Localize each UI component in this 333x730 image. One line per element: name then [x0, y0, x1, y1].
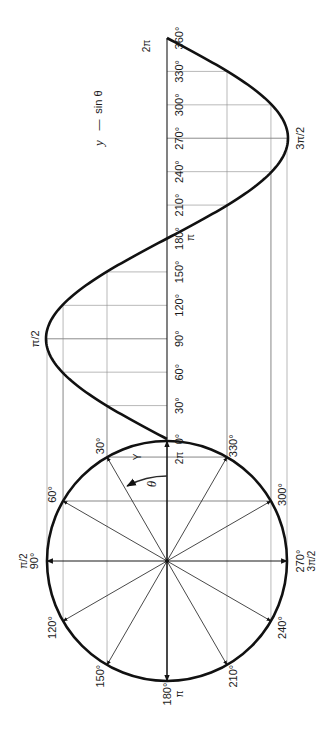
- curve-label-270: 3π/2: [294, 127, 306, 150]
- circle-sublabel-180: π: [174, 690, 185, 697]
- axis-label-0: 0°: [173, 434, 185, 445]
- circle-label-90: 90°: [28, 553, 40, 570]
- circle-sublabel-270: 3π/2: [306, 550, 317, 571]
- radius-arrow-150: [107, 561, 167, 665]
- axis-label-270: 270°: [173, 127, 185, 150]
- axis-label-150: 150°: [173, 261, 185, 284]
- radius-arrow-240: [167, 561, 271, 621]
- axis-label-330: 330°: [173, 60, 185, 83]
- axis-label-240: 240°: [173, 160, 185, 183]
- axis-label-30: 30°: [173, 397, 185, 414]
- axis-label-120: 120°: [173, 294, 185, 317]
- circle-label-120: 120°: [46, 616, 58, 639]
- circle-label-60: 60°: [46, 486, 58, 503]
- equation-dash: —: [92, 120, 104, 131]
- circle-label-270: 270°: [294, 550, 306, 573]
- equation-label: y — sin θ: [91, 90, 106, 148]
- axis-label-90: 90°: [173, 330, 185, 347]
- axis-label-180: 180°: [173, 227, 185, 250]
- circle-label-330: 330°: [228, 434, 240, 457]
- radius-arrow-330: [167, 457, 227, 561]
- curve-label-90: π/2: [29, 330, 41, 347]
- radius-arrow-120: [63, 561, 167, 621]
- circle-label-150: 150°: [95, 665, 107, 688]
- equation-lhs: y: [91, 140, 106, 148]
- axis-radian-label-360: 2π: [141, 40, 152, 53]
- theta-symbol: θ: [144, 480, 159, 487]
- radius-arrow-60: [63, 501, 167, 561]
- axis-label-300: 300°: [173, 93, 185, 116]
- circle-label-0: 2π: [174, 452, 185, 465]
- radius-arrow-30: [107, 457, 167, 561]
- circle-label-210: 210°: [228, 665, 240, 688]
- radius-arrow-300: [167, 501, 271, 561]
- sine-unit-circle-diagram: θ Y y — sin θ 0°30°60°90°120°150°180°210…: [0, 0, 333, 730]
- axis-label-210: 210°: [173, 194, 185, 217]
- axis-label-360: 360°: [173, 27, 185, 50]
- axis-radian-label-180: π: [185, 234, 196, 241]
- circle-label-240: 240°: [276, 616, 288, 639]
- radius-arrow-210: [167, 561, 227, 665]
- axis-label-60: 60°: [173, 364, 185, 381]
- circle-label-30: 30°: [95, 437, 107, 454]
- circle-label-180: 180°: [161, 683, 173, 706]
- equation-rhs: sin θ: [92, 90, 104, 113]
- y-symbol: Y: [132, 453, 143, 460]
- circle-label-300: 300°: [276, 483, 288, 506]
- circle-sublabel-90: π/2: [18, 553, 29, 569]
